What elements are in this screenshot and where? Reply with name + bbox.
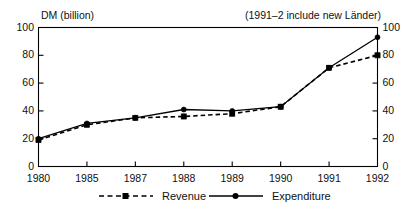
legend-item-revenue: Revenue — [98, 186, 206, 206]
plot-area — [0, 0, 415, 215]
x-axis-tick-label: 1991 — [309, 173, 349, 184]
chart-legend: Revenue Expenditure — [0, 186, 415, 210]
x-axis-tick-label: 1987 — [115, 173, 155, 184]
data-point-revenue — [278, 104, 283, 109]
x-axis-tick-label: 1980 — [19, 173, 59, 184]
data-point-expenditure — [375, 35, 380, 40]
y-axis-tick-label-left: 0 — [2, 161, 34, 172]
legend-label-revenue: Revenue — [162, 190, 206, 202]
y-axis-tick-label-right: 20 — [383, 133, 415, 144]
legend-item-expenditure: Expenditure — [208, 186, 331, 206]
y-axis-tick-label-left: 80 — [2, 49, 34, 60]
y-axis-tick-label-right: 100 — [383, 22, 415, 33]
y-axis-tick-label-left: 20 — [2, 133, 34, 144]
data-point-revenue — [133, 115, 138, 120]
data-point-revenue — [230, 111, 235, 116]
y-axis-tick-label-right: 60 — [383, 77, 415, 88]
y-axis-tick-label-left: 60 — [2, 77, 34, 88]
y-axis-tick-label-right: 40 — [383, 105, 415, 116]
y-axis-tick-label-right: 80 — [383, 49, 415, 60]
y-axis-tick-label-left: 100 — [2, 22, 34, 33]
data-point-revenue — [36, 137, 41, 142]
legend-swatch-expenditure — [208, 189, 264, 203]
x-axis-tick-label: 1990 — [261, 173, 301, 184]
data-point-expenditure — [181, 107, 186, 112]
x-axis-tick-label: 1992 — [358, 173, 398, 184]
y-axis-tick-label-right: 0 — [383, 161, 415, 172]
x-axis-tick-label: 1989 — [212, 173, 252, 184]
x-axis-tick-label: 1985 — [67, 173, 107, 184]
legend-label-expenditure: Expenditure — [272, 190, 331, 202]
data-point-revenue — [84, 122, 89, 127]
x-axis-tick-label: 1988 — [164, 173, 204, 184]
y-axis-tick-label-left: 40 — [2, 105, 34, 116]
data-point-revenue — [375, 53, 380, 58]
legend-swatch-revenue — [98, 189, 154, 203]
chart-figure: DM (billion) (1991–2 include new Länder)… — [0, 0, 415, 215]
data-point-revenue — [326, 65, 331, 70]
data-point-revenue — [181, 114, 186, 119]
plot-frame — [39, 28, 378, 167]
